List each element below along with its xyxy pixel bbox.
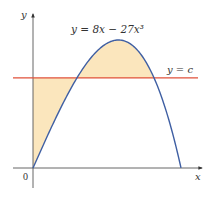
curve-equation-label: y = 8x − 27x³ xyxy=(70,23,144,35)
line-label: y = c xyxy=(166,64,193,75)
x-axis-label: x xyxy=(195,171,201,182)
graph: y x 0 y = 8x − 27x³ y = c xyxy=(0,0,209,199)
y-axis-label: y xyxy=(20,9,27,20)
origin-label: 0 xyxy=(23,171,28,182)
shaded-region-top xyxy=(77,40,154,78)
